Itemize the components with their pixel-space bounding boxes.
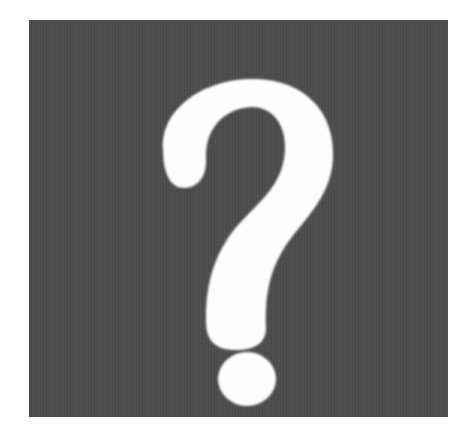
question-mark-icon xyxy=(0,0,475,441)
